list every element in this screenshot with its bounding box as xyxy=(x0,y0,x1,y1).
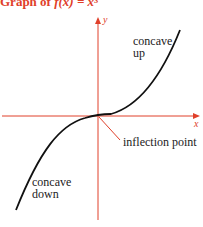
inflection-pointer xyxy=(99,117,120,140)
y-axis-arrow-icon xyxy=(95,17,101,24)
concave-up-line2: up xyxy=(133,47,172,59)
y-axis-label: y xyxy=(103,14,107,25)
concave-down-line2: down xyxy=(32,188,71,200)
concave-down-label: concave down xyxy=(32,176,71,200)
x-axis-label: x xyxy=(194,118,198,129)
plot-area xyxy=(0,0,203,227)
inflection-point-label: inflection point xyxy=(123,136,197,148)
concave-up-label: concave up xyxy=(133,35,172,59)
